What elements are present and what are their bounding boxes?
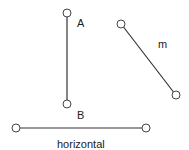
segment-horizontal-end-handle[interactable]: [142, 124, 150, 132]
segment-m-start-handle[interactable]: [117, 20, 125, 28]
segment-m-line: [124, 27, 174, 92]
segment-m-end-handle[interactable]: [172, 91, 180, 99]
point-b-handle[interactable]: [63, 100, 71, 108]
segment-m-label: m: [158, 38, 167, 50]
segment-horizontal-start-handle[interactable]: [12, 124, 20, 132]
point-a-label: A: [77, 17, 85, 29]
segment-m: m: [117, 20, 180, 99]
point-a-handle[interactable]: [63, 9, 71, 17]
segment-horizontal: horizontal: [12, 124, 150, 150]
diagram-canvas: A B m horizontal: [0, 0, 189, 150]
segment-horizontal-label: horizontal: [57, 138, 105, 150]
segment-ab: A B: [63, 9, 85, 121]
point-b-label: B: [77, 109, 84, 121]
